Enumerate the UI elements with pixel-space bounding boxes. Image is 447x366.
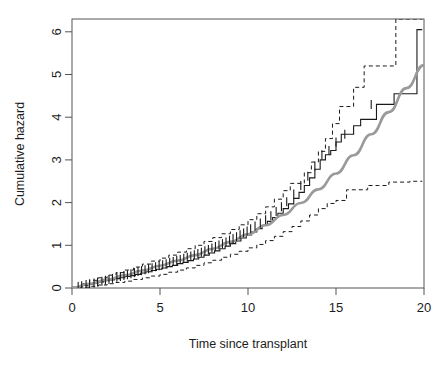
y-tick-label: 2 [49,199,64,206]
chart-canvas: 051015200123456 Time since transplant Cu… [0,0,447,366]
y-axis-title: Cumulative hazard [13,102,27,206]
x-tick-label: 20 [417,300,431,315]
series-fitted-parametric-hazard [72,65,424,288]
cumulative-hazard-figure: 051015200123456 Time since transplant Cu… [0,0,447,366]
data-series-group [72,19,424,288]
y-tick-label: 0 [49,284,64,291]
x-tick-label: 0 [68,300,75,315]
y-tick-label: 5 [49,71,64,78]
y-tick-label: 3 [49,156,64,163]
axis-ticks [65,32,424,295]
y-tick-label: 1 [49,242,64,249]
x-tick-label: 15 [329,300,343,315]
y-tick-label: 6 [49,28,64,35]
x-axis-title: Time since transplant [189,337,308,351]
x-tick-label: 5 [156,300,163,315]
series-nelson-aalen-estimate [72,30,422,288]
plot-box [72,19,424,288]
plot-panel [72,19,424,288]
y-tick-label: 4 [49,114,64,121]
series-upper-confidence-limit [72,19,422,287]
x-tick-label: 10 [241,300,255,315]
axis-tick-labels: 051015200123456 [49,28,432,315]
censor-marks-group [78,100,371,291]
